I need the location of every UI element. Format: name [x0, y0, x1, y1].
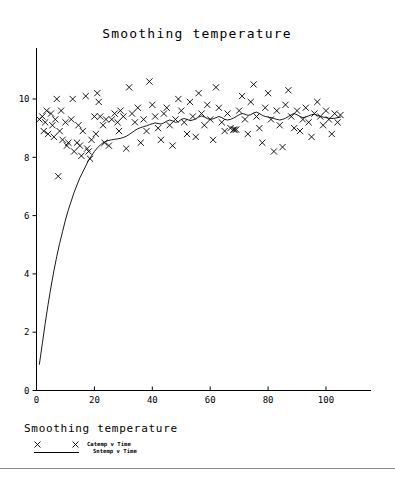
- scatter-marker: [232, 127, 238, 133]
- scatter-marker: [117, 108, 123, 114]
- scatter-marker: [187, 99, 193, 105]
- scatter-marker: [181, 119, 187, 125]
- scatter-marker: [190, 113, 196, 119]
- scatter-marker: [164, 105, 170, 111]
- scatter-marker: [51, 134, 57, 140]
- scatter-marker: [256, 125, 262, 131]
- chart-axes: [37, 48, 372, 391]
- scatter-marker: [303, 105, 309, 111]
- y-tick-label: 4: [24, 269, 29, 279]
- scatter-marker: [112, 110, 118, 116]
- x-tick-label: 80: [263, 395, 274, 405]
- y-axis-ticks: 0246810: [19, 94, 37, 396]
- scatter-marker: [210, 137, 216, 143]
- scatter-marker: [52, 116, 58, 122]
- scatter-marker: [222, 128, 228, 134]
- scatter-marker: [239, 93, 245, 99]
- scatter-marker: [86, 148, 92, 154]
- scatter-marker: [48, 110, 54, 116]
- scatter-marker: [42, 119, 48, 125]
- scatter-marker: [123, 145, 129, 151]
- legend-label-sntemp: Sntemp v Time: [93, 448, 137, 455]
- scatter-marker: [54, 96, 60, 102]
- y-tick-label: 0: [24, 386, 29, 396]
- scatter-marker: [277, 122, 283, 128]
- scatter-marker: [83, 93, 89, 99]
- scatter-marker: [248, 99, 254, 105]
- scatter-marker: [109, 116, 115, 122]
- scatter-marker: [294, 108, 300, 114]
- y-tick-label: 10: [19, 94, 30, 104]
- scatter-marker: [143, 128, 149, 134]
- scatter-marker: [213, 84, 219, 90]
- legend-label-catemp: Catemp v Time: [87, 441, 131, 448]
- scatter-marker: [334, 119, 340, 125]
- scatter-marker: [120, 113, 126, 119]
- scatter-marker: [103, 116, 109, 122]
- legend-entry-catemp: Catemp v Time: [35, 441, 132, 448]
- scatter-marker: [114, 119, 120, 125]
- scatter-marker: [216, 105, 222, 111]
- scatter-marker: [152, 113, 158, 119]
- x-tick-label: 20: [89, 395, 100, 405]
- scatter-marker: [332, 110, 338, 116]
- scatter-marker: [77, 143, 83, 149]
- smoothing-temperature-chart: Smoothing temperature 0246810 0204060801…: [0, 0, 395, 479]
- scatter-marker: [219, 119, 225, 125]
- scatter-marker: [94, 90, 100, 96]
- scatter-marker: [70, 96, 76, 102]
- x-tick-label: 0: [34, 395, 39, 405]
- chart-title: Smoothing temperature: [102, 26, 292, 41]
- scatter-marker: [230, 127, 236, 133]
- scatter-marker: [49, 122, 55, 128]
- scatter-marker: [93, 131, 99, 137]
- scatter-marker: [265, 90, 271, 96]
- scatter-marker: [236, 108, 242, 114]
- scatter-marker: [329, 131, 335, 137]
- x-axis-ticks: 020406080100: [34, 387, 334, 405]
- scatter-marker: [57, 128, 63, 134]
- scatter-marker: [44, 108, 50, 114]
- legend-marker-x: [35, 442, 79, 448]
- y-tick-label: 8: [24, 153, 29, 163]
- scatter-marker: [242, 116, 248, 122]
- scatter-marker: [259, 140, 265, 146]
- scatter-marker: [323, 108, 329, 114]
- y-tick-label: 6: [24, 211, 29, 221]
- x-tick-label: 40: [147, 395, 158, 405]
- scatter-marker: [132, 119, 138, 125]
- scatter-marker: [45, 131, 51, 137]
- scatter-marker: [59, 137, 65, 143]
- scatter-marker: [39, 113, 45, 119]
- scatter-marker: [55, 173, 61, 179]
- scatter-marker: [116, 128, 122, 134]
- x-tick-label: 100: [318, 395, 334, 405]
- scatter-marker: [87, 156, 93, 162]
- scatter-marker: [291, 125, 297, 131]
- scatter-marker: [58, 108, 64, 114]
- scatter-marker: [308, 134, 314, 140]
- scatter-marker: [97, 113, 103, 119]
- scatter-marker: [282, 102, 288, 108]
- scatter-marker: [169, 143, 175, 149]
- scatter-marker: [161, 110, 167, 116]
- scatter-marker: [167, 122, 173, 128]
- legend-entry-sntemp: Sntemp v Time: [34, 448, 137, 455]
- scatter-marker: [274, 108, 280, 114]
- scatter-marker: [306, 119, 312, 125]
- scatter-marker: [41, 128, 47, 134]
- scatter-marker: [138, 140, 144, 146]
- scatter-marker: [224, 110, 230, 116]
- scatter-marker: [251, 81, 257, 87]
- scatter-marker: [135, 105, 141, 111]
- scatter-marker: [62, 119, 68, 125]
- scatter-marker: [101, 140, 107, 146]
- scatter-marker: [65, 140, 71, 146]
- scatter-marker: [71, 148, 77, 154]
- scatter-marker: [262, 105, 268, 111]
- scatter-marker: [88, 137, 94, 143]
- scatter-marker: [204, 102, 210, 108]
- scatter-marker: [201, 122, 207, 128]
- scatter-marker: [326, 116, 332, 122]
- scatter-marker: [245, 131, 251, 137]
